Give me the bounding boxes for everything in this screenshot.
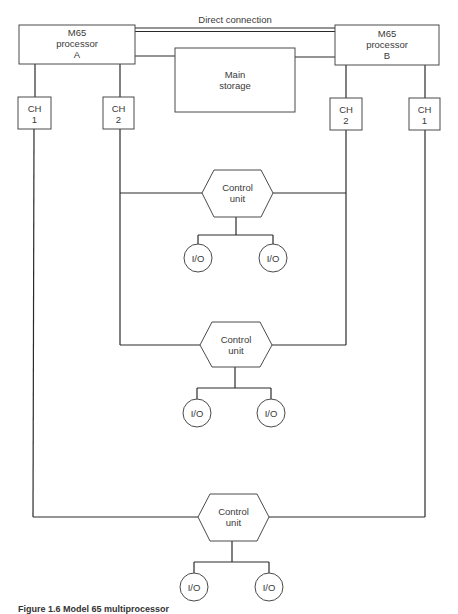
io-device-label: I/O — [184, 253, 212, 264]
io-device-label: I/O — [257, 408, 285, 419]
main-storage-line1: Main — [175, 69, 295, 80]
main-storage-line2: storage — [175, 80, 295, 91]
channel-number: 2 — [330, 115, 362, 126]
processor-a-id: A — [19, 49, 135, 60]
channel-a-ch1-label: CH 1 — [18, 103, 51, 125]
io-device-label: I/O — [255, 582, 283, 593]
processor-a-type: processor — [19, 38, 135, 49]
io-device-label: I/O — [259, 253, 287, 264]
control-unit-label-line1: Control — [200, 334, 272, 345]
io-device-label: I/O — [180, 582, 208, 593]
channel-label-text: CH — [409, 104, 440, 115]
processor-a-model: M65 — [19, 27, 135, 38]
control-unit-1-label: Control unit — [202, 182, 273, 204]
direct-connection-label: Direct connection — [185, 14, 285, 25]
io-device-label: I/O — [183, 408, 211, 419]
processor-b-label: M65 processor B — [335, 28, 439, 61]
control-unit-label-line1: Control — [198, 506, 269, 517]
main-storage-label: Main storage — [175, 69, 295, 91]
processor-b-model: M65 — [335, 28, 439, 39]
channel-b-ch1-label: CH 1 — [409, 104, 440, 126]
control-unit-label-line2: unit — [202, 193, 273, 204]
channel-a-ch2-label: CH 2 — [103, 103, 134, 125]
channel-label-text: CH — [18, 103, 51, 114]
control-unit-label-line1: Control — [202, 182, 273, 193]
channel-number: 1 — [18, 114, 51, 125]
channel-number: 1 — [409, 115, 440, 126]
control-unit-label-line2: unit — [200, 345, 272, 356]
processor-a-label: M65 processor A — [19, 27, 135, 60]
channel-number: 2 — [103, 114, 134, 125]
figure-caption: Figure 1.6 Model 65 multiprocessor — [18, 604, 169, 614]
channel-label-text: CH — [103, 103, 134, 114]
control-unit-label-line2: unit — [198, 517, 269, 528]
channel-label-text: CH — [330, 104, 362, 115]
channel-b-ch2-label: CH 2 — [330, 104, 362, 126]
control-unit-2-label: Control unit — [200, 334, 272, 356]
processor-b-type: processor — [335, 39, 439, 50]
control-unit-3-label: Control unit — [198, 506, 269, 528]
a-ch1-bus — [33, 129, 34, 517]
processor-b-id: B — [335, 50, 439, 61]
